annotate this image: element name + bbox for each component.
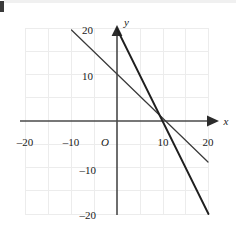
- y-tick-label-10: 10: [82, 71, 95, 82]
- y-axis: [112, 25, 123, 215]
- y-axis-name-label: y: [124, 17, 129, 28]
- y-tick-label-neg20: –20: [80, 210, 99, 221]
- origin-label: O: [101, 137, 109, 148]
- x-tick-label-neg10: –10: [63, 137, 80, 148]
- x-tick-label-10: 10: [158, 137, 169, 148]
- coordinate-plane-svg: [0, 0, 236, 237]
- x-tick-label-20: 20: [203, 137, 214, 148]
- shallow-line: [72, 30, 209, 162]
- graph-figure: 20 10 –10 –20 –20 –10 10 20 O x y: [0, 0, 236, 237]
- y-tick-label-20: 20: [82, 25, 95, 36]
- x-axis: [20, 116, 219, 127]
- x-tick-label-neg20: –20: [17, 137, 34, 148]
- y-tick-label-neg10: –10: [80, 165, 99, 176]
- x-axis-name-label: x: [224, 116, 229, 127]
